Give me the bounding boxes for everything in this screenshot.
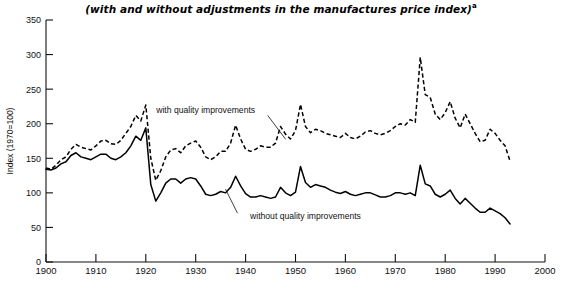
- y-tick-label: 300: [26, 50, 41, 60]
- x-tick-label: 1910: [85, 265, 106, 276]
- series-line-dashed: [46, 57, 510, 180]
- x-tick-label: 1980: [435, 265, 456, 276]
- x-tick-label: 1900: [35, 265, 56, 276]
- y-tick-label: 250: [26, 85, 41, 95]
- annotation-without-quality: without quality improvements: [249, 211, 361, 221]
- x-tick-label: 1930: [185, 265, 206, 276]
- x-tick-label: 1920: [135, 265, 156, 276]
- chart-title-footnote-marker: a: [472, 2, 477, 10]
- y-tick-label: 350: [26, 15, 41, 25]
- footnote-text: [2, 287, 302, 296]
- x-tick-label: 2000: [534, 265, 555, 276]
- y-tick-label: 50: [31, 223, 41, 233]
- plot-area: 050100150200250300350Index (1970=100) 19…: [0, 14, 562, 282]
- x-tick-label: 1970: [385, 265, 406, 276]
- x-tick-label: 1960: [335, 265, 356, 276]
- x-tick-label: 1940: [235, 265, 256, 276]
- series-annotations: with quality improvementswithout quality…: [155, 105, 361, 221]
- chart-title-text: (with and without adjustments in the man…: [85, 3, 472, 15]
- x-axis: 1900191019201930194019501960197019801990…: [35, 254, 555, 276]
- x-tick-label: 1990: [485, 265, 506, 276]
- x-tick-label: 1950: [285, 265, 306, 276]
- y-axis: 050100150200250300350Index (1970=100): [5, 15, 53, 267]
- annotation-leader-without-quality: [225, 189, 237, 213]
- chart-svg: 050100150200250300350Index (1970=100) 19…: [0, 14, 562, 282]
- y-tick-label: 100: [26, 188, 41, 198]
- y-tick-label: 150: [26, 154, 41, 164]
- annotation-with-quality: with quality improvements: [155, 105, 255, 115]
- y-axis-title: Index (1970=100): [5, 107, 15, 174]
- chart-page: (with and without adjustments in the man…: [0, 0, 562, 296]
- series-line-solid: [46, 128, 510, 224]
- y-tick-label: 200: [26, 119, 41, 129]
- series-lines: [46, 57, 510, 224]
- annotation-leader-with-quality: [268, 115, 286, 139]
